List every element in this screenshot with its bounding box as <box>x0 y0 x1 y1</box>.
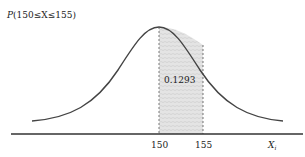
tick-label-155: 155 <box>195 140 212 150</box>
normal-curve <box>32 27 283 121</box>
chart-title: P(150≤X≤155) <box>6 10 76 20</box>
tick-label-150: 150 <box>151 140 168 150</box>
x-axis-label: Xi <box>267 140 276 151</box>
normal-curve-chart: P(150≤X≤155) 0.1293 150 155 Xi <box>0 0 305 157</box>
area-value-label: 0.1293 <box>164 75 196 85</box>
